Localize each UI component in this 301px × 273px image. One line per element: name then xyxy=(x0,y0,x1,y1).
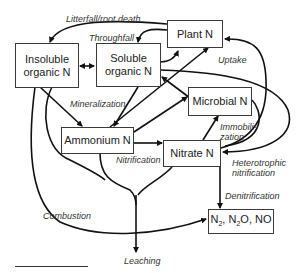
gases-label: N2, N2O, NO xyxy=(211,213,272,230)
soluble-line2: organic N xyxy=(105,65,152,77)
soluble-organic-n-box: Solubleorganic N xyxy=(96,43,161,87)
denitrification-label: Denitrification xyxy=(225,191,280,201)
insoluble-organic-n-box: Insolubleorganic N xyxy=(15,43,79,88)
nitrate-leaching xyxy=(138,167,172,195)
immobilization-label-2: zation xyxy=(220,132,244,142)
insoluble-line2: organic N xyxy=(23,66,70,78)
throughfall-arrow xyxy=(138,29,167,42)
ammonium-n-label: Ammonium N xyxy=(64,134,131,147)
immobilization-arrow xyxy=(203,116,218,140)
throughfall-label: Throughfall xyxy=(89,33,134,43)
microbial-soluble-arrow xyxy=(162,77,190,98)
nitrate-n-label: Nitrate N xyxy=(170,147,213,160)
leaching-label: Leaching xyxy=(124,256,161,266)
plant-n-label: Plant N xyxy=(177,28,213,41)
nitrification-label: Nitrification xyxy=(116,155,161,165)
soluble-line1: Soluble xyxy=(110,52,147,64)
microbial-n-box: Microbial N xyxy=(188,87,252,116)
plant-n-box: Plant N xyxy=(167,20,223,48)
mineralization-label: Mineralization xyxy=(70,99,126,109)
heterotrophic-label-2: nitrification xyxy=(232,168,275,178)
footnote-rule xyxy=(15,266,88,267)
uptake-label: Uptake xyxy=(218,55,247,65)
ammonium-n-box: Ammonium N xyxy=(61,127,134,154)
gases-box: N2, N2O, NO xyxy=(208,209,274,234)
nitrate-n-box: Nitrate N xyxy=(163,140,221,167)
litterfall-label: Litterfall/root death xyxy=(66,14,141,24)
soluble-uptake-arrow xyxy=(160,51,178,62)
immobilization-label-1: Immobili- xyxy=(220,122,257,132)
heterotrophic-label-1: Heterotrophic xyxy=(232,158,286,168)
insoluble-line1: Insoluble xyxy=(25,53,69,65)
microbial-n-label: Microbial N xyxy=(192,95,247,108)
combustion-label: Combustion xyxy=(43,211,91,221)
